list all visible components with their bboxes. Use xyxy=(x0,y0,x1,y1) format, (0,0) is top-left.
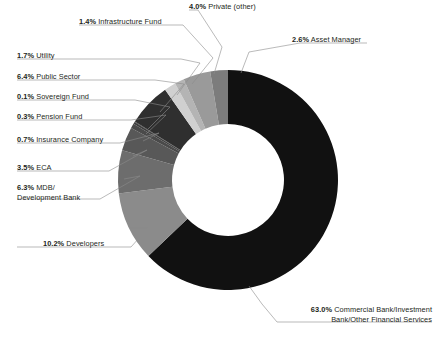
label-developers-pct: 10.2% xyxy=(43,239,64,248)
label-asset-manager-pct: 2.6% xyxy=(292,35,309,44)
label-sovereign-fund-name: Sovereign Fund xyxy=(36,92,89,101)
label-mdb-name: MDB/ xyxy=(36,183,55,192)
label-insurance-company-name: Insurance Company xyxy=(36,135,103,144)
label-public-sector-name: Public Sector xyxy=(36,72,80,81)
label-mdb-development-bank: 6.3% MDB/ Development Bank xyxy=(17,183,80,202)
label-eca-pct: 3.5% xyxy=(17,163,34,172)
label-eca: 3.5% ECA xyxy=(17,163,52,173)
label-sovereign-fund-pct: 0.1% xyxy=(17,92,34,101)
label-sovereign-fund: 0.1% Sovereign Fund xyxy=(17,92,89,102)
label-commercial-bank-name: Commercial Bank/Investment xyxy=(334,305,432,314)
label-private-other-pct: 4.0% xyxy=(189,2,206,11)
leader-line-infrastructure-fund xyxy=(79,25,213,84)
donut-chart xyxy=(0,0,448,339)
label-infrastructure-fund-name: Infrastructure Fund xyxy=(98,17,161,26)
label-commercial-bank: 63.0% Commercial Bank/Investment Bank/Ot… xyxy=(262,305,432,324)
label-utility: 1.7% Utility xyxy=(17,51,55,61)
label-insurance-company: 0.7% Insurance Company xyxy=(17,135,103,145)
label-asset-manager: 2.6% Asset Manager xyxy=(292,35,361,45)
label-asset-manager-name: Asset Manager xyxy=(311,35,361,44)
label-developers-name: Developers xyxy=(66,239,104,248)
chart-canvas: 1.4% Infrastructure Fund 4.0% Private (o… xyxy=(0,0,448,339)
label-commercial-bank-line-2: Bank/Other Financial Services xyxy=(262,315,432,325)
label-infrastructure-fund: 1.4% Infrastructure Fund xyxy=(79,17,162,27)
label-pension-fund-name: Pension Fund xyxy=(36,112,82,121)
label-pension-fund-pct: 0.3% xyxy=(17,112,34,121)
label-commercial-bank-pct: 63.0% xyxy=(311,305,332,314)
label-public-sector: 6.4% Public Sector xyxy=(17,72,80,82)
label-mdb-line-1: 6.3% MDB/ xyxy=(17,183,80,193)
label-commercial-bank-line-1: 63.0% Commercial Bank/Investment xyxy=(262,305,432,315)
label-mdb-line-2: Development Bank xyxy=(17,193,80,203)
label-public-sector-pct: 6.4% xyxy=(17,72,34,81)
leader-line-asset-manager xyxy=(241,43,367,73)
label-utility-name: Utility xyxy=(36,51,54,60)
label-utility-pct: 1.7% xyxy=(17,51,34,60)
label-pension-fund: 0.3% Pension Fund xyxy=(17,112,82,122)
label-developers: 10.2% Developers xyxy=(43,239,104,249)
label-insurance-company-pct: 0.7% xyxy=(17,135,34,144)
label-eca-name: ECA xyxy=(36,163,51,172)
label-private-other-name: Private (other) xyxy=(208,2,256,11)
label-private-other: 4.0% Private (other) xyxy=(189,2,256,12)
label-mdb-pct: 6.3% xyxy=(17,183,34,192)
leader-line-private-other xyxy=(189,10,222,74)
label-infrastructure-fund-pct: 1.4% xyxy=(79,17,96,26)
